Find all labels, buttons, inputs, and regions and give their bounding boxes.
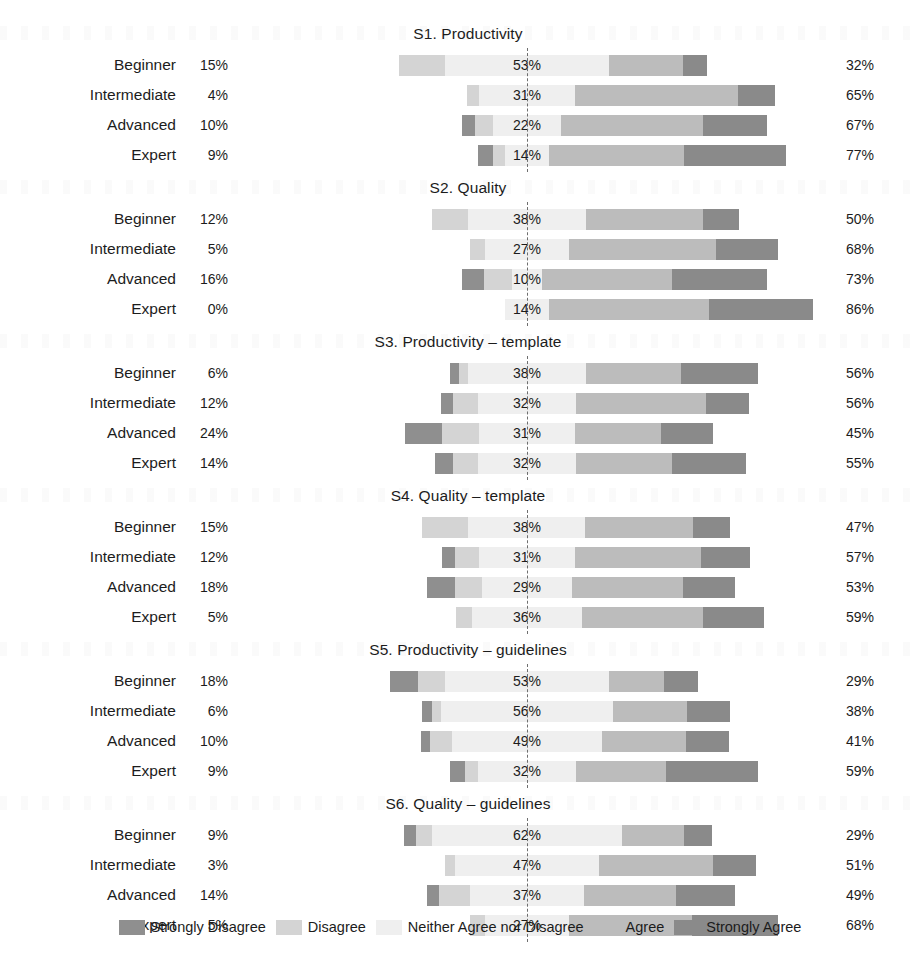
legend-label: Agree (626, 919, 665, 935)
legend-label: Strongly Disagree (151, 919, 266, 935)
bar-segment-d (470, 239, 485, 260)
chart-row: Expert9%59%32% (0, 756, 920, 786)
bar-segment-d (453, 453, 478, 474)
stacked-bar (427, 577, 735, 598)
bar-segment-sa (681, 363, 758, 384)
row-plot-area: 14% (0, 294, 920, 324)
bar-segment-sd (450, 363, 459, 384)
bar-segment-sd (422, 701, 431, 722)
legend-swatch-d (276, 920, 302, 935)
chart-row: Expert9%77%14% (0, 140, 920, 170)
stacked-bar (462, 269, 767, 290)
row-plot-area: 31% (0, 542, 920, 572)
row-plot-area: 53% (0, 50, 920, 80)
bar-segment-a (602, 731, 685, 752)
chart-row: Intermediate5%68%27% (0, 234, 920, 264)
bar-segment-sa (703, 115, 768, 136)
chart-row: Expert5%59%36% (0, 602, 920, 632)
bar-segment-sa (664, 671, 698, 692)
legend-swatch-a (594, 920, 620, 935)
bar-segment-d (445, 855, 454, 876)
row-plot-area: 47% (0, 850, 920, 880)
row-plot-area: 38% (0, 204, 920, 234)
row-plot-area: 62% (0, 820, 920, 850)
bar-segment-d (418, 671, 446, 692)
bar-segment-sd (478, 145, 493, 166)
center-reference-line (527, 48, 528, 172)
bar-segment-d (455, 577, 483, 598)
row-plot-area: 10% (0, 264, 920, 294)
legend-swatch-sd (119, 920, 145, 935)
bar-segment-d (422, 517, 468, 538)
legend-item[interactable]: Disagree (276, 919, 366, 935)
bar-segment-sd (427, 577, 455, 598)
chart-panel: S2. QualityBeginner12%50%38%Intermediate… (0, 178, 920, 324)
stacked-bar (421, 731, 729, 752)
legend-swatch-sa (674, 920, 700, 935)
chart-sections: S1. ProductivityBeginner15%32%53%Interme… (0, 24, 920, 940)
legend-label: Strongly Agree (706, 919, 801, 935)
chart-row: Intermediate6%38%56% (0, 696, 920, 726)
stacked-bar (505, 299, 813, 320)
bar-segment-a (585, 517, 693, 538)
chart-row: Intermediate3%51%47% (0, 850, 920, 880)
bar-segment-sa (703, 209, 740, 230)
stacked-bar (470, 239, 778, 260)
panel-title: S3. Productivity – template (0, 332, 920, 352)
bar-segment-a (561, 115, 703, 136)
bar-segment-sa (706, 393, 749, 414)
chart-row: Expert14%55%32% (0, 448, 920, 478)
bar-segment-sd (435, 453, 453, 474)
row-plot-area: 32% (0, 388, 920, 418)
bar-segment-d (465, 761, 477, 782)
bar-segment-a (576, 453, 671, 474)
stacked-bar (450, 761, 758, 782)
chart-row: Beginner12%50%38% (0, 204, 920, 234)
bar-segment-sa (713, 855, 756, 876)
stacked-bar (467, 85, 775, 106)
bar-segment-sd (441, 393, 453, 414)
stacked-bar (404, 825, 712, 846)
bar-segment-a (582, 607, 702, 628)
legend-item[interactable]: Agree (594, 919, 665, 935)
bar-segment-sd (390, 671, 418, 692)
bar-segment-d (493, 145, 505, 166)
row-plot-area: 53% (0, 666, 920, 696)
chart-row: Advanced18%53%29% (0, 572, 920, 602)
bar-segment-a (575, 547, 701, 568)
bar-segment-a (609, 671, 664, 692)
legend-item[interactable]: Neither Agree nor Disagree (376, 919, 584, 935)
chart-row: Expert0%86%14% (0, 294, 920, 324)
stacked-bar (432, 209, 740, 230)
bar-segment-sd (405, 423, 442, 444)
bar-segment-sa (684, 825, 712, 846)
stacked-bar (422, 701, 730, 722)
chart-panel: S5. Productivity – guidelinesBeginner18%… (0, 640, 920, 786)
bar-segment-sa (701, 547, 750, 568)
bar-segment-sa (683, 55, 708, 76)
bar-segment-sa (672, 453, 746, 474)
bar-segment-a (575, 423, 661, 444)
legend-item[interactable]: Strongly Agree (674, 919, 801, 935)
bar-segment-sd (462, 115, 474, 136)
row-plot-area: 38% (0, 512, 920, 542)
bar-segment-a (599, 855, 713, 876)
bar-segment-d (432, 701, 441, 722)
bar-segment-sd (427, 885, 439, 906)
bar-segment-d (399, 55, 445, 76)
row-plot-area: 27% (0, 234, 920, 264)
bar-segment-d (456, 607, 471, 628)
bar-segment-a (609, 55, 683, 76)
chart-row: Advanced24%45%31% (0, 418, 920, 448)
bar-segment-sa (676, 885, 735, 906)
row-plot-area: 36% (0, 602, 920, 632)
bar-segment-d (455, 547, 480, 568)
stacked-bar (422, 517, 730, 538)
panel-title: S6. Quality – guidelines (0, 794, 920, 814)
row-plot-area: 32% (0, 448, 920, 478)
bar-segment-sa (684, 145, 786, 166)
bar-segment-a (586, 209, 703, 230)
legend-item[interactable]: Strongly Disagree (119, 919, 266, 935)
legend-label: Disagree (308, 919, 366, 935)
stacked-bar (405, 423, 713, 444)
